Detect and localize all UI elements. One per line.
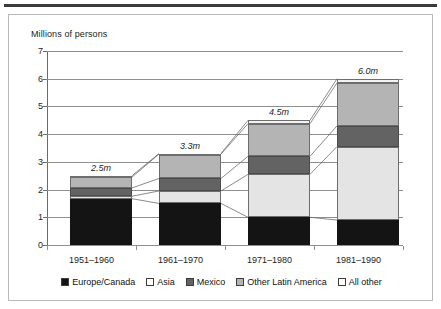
x-axis-category-label: 1951–1960 [47, 255, 137, 265]
bar-segment [337, 79, 399, 83]
y-axis-tick-label: 0 [29, 241, 43, 250]
legend-swatch-icon [146, 278, 154, 286]
legend-item-label: Asia [157, 277, 175, 287]
y-axis-tick-mark [43, 245, 47, 246]
legend-item[interactable]: Mexico [186, 277, 226, 287]
bar-stack [70, 51, 132, 245]
bar-value-label: 4.5m [244, 107, 314, 117]
legend-item-label: Europe/Canada [72, 277, 135, 287]
chart-figure-frame: Millions of persons 01234567 2.5m3.3m4.5… [8, 14, 433, 301]
x-axis-category-label: 1981–1990 [314, 255, 404, 265]
bar-segment [159, 203, 221, 245]
legend-swatch-icon [338, 278, 346, 286]
y-axis-tick-label: 6 [29, 75, 43, 84]
legend-item[interactable]: Other Latin America [236, 277, 327, 287]
x-axis-tick-mark [403, 246, 404, 250]
chart-axis-title: Millions of persons [31, 29, 107, 39]
bar-segment [159, 191, 221, 203]
bar-segment [248, 217, 310, 245]
bar-segment [337, 126, 399, 147]
bar-value-label: 2.5m [66, 163, 136, 173]
bar-segment [159, 154, 221, 178]
bar-segment [337, 147, 399, 220]
bar-segment [70, 176, 132, 178]
legend-item-label: All other [349, 277, 382, 287]
legend-item-label: Other Latin America [247, 277, 327, 287]
bar-value-label: 6.0m [333, 66, 403, 76]
y-axis-tick-label: 5 [29, 102, 43, 111]
x-axis-tick-mark [314, 246, 315, 250]
bar-stack [337, 51, 399, 245]
x-axis-tick-mark [136, 246, 137, 250]
y-axis-tick-label: 4 [29, 130, 43, 139]
bar-value-label: 3.3m [155, 141, 225, 151]
chart-legend: Europe/CanadaAsiaMexicoOther Latin Ameri… [9, 277, 434, 287]
legend-item-label: Mexico [197, 277, 226, 287]
bar-segment [248, 174, 310, 217]
bar-segment [70, 196, 132, 198]
legend-swatch-icon [186, 278, 194, 286]
x-axis-category-label: 1961–1970 [136, 255, 226, 265]
y-axis-tick-label: 2 [29, 186, 43, 195]
y-axis-tick-label: 7 [29, 47, 43, 56]
bar-segment [248, 124, 310, 157]
y-axis-tick-mark [43, 162, 47, 163]
legend-item[interactable]: Asia [146, 277, 175, 287]
bar-segment [70, 199, 132, 245]
y-axis-tick-label: 1 [29, 213, 43, 222]
legend-swatch-icon [236, 278, 244, 286]
x-axis-category-label: 1971–1980 [225, 255, 315, 265]
y-axis-tick-mark [43, 51, 47, 52]
bar-segment [248, 156, 310, 174]
legend-swatch-icon [61, 278, 69, 286]
y-axis-tick-mark [43, 217, 47, 218]
bar-segment [159, 178, 221, 190]
y-axis-tick-mark [43, 106, 47, 107]
bar-segment [337, 83, 399, 126]
y-axis-tick-mark [43, 190, 47, 191]
x-axis-tick-mark [47, 246, 48, 250]
bar-segment [70, 177, 132, 188]
legend-item[interactable]: All other [338, 277, 382, 287]
plot-area: 2.5m3.3m4.5m6.0m [47, 51, 403, 245]
bar-segment [248, 120, 310, 123]
y-axis-tick-label: 3 [29, 158, 43, 167]
top-divider-rule [4, 4, 437, 7]
legend-item[interactable]: Europe/Canada [61, 277, 135, 287]
y-axis-tick-mark [43, 79, 47, 80]
bar-segment [70, 188, 132, 196]
bar-segment [159, 154, 221, 156]
y-axis-tick-labels: 01234567 [25, 51, 43, 245]
x-axis-tick-mark [225, 246, 226, 250]
y-axis-tick-mark [43, 134, 47, 135]
bar-segment [337, 220, 399, 245]
bar-stack [248, 51, 310, 245]
